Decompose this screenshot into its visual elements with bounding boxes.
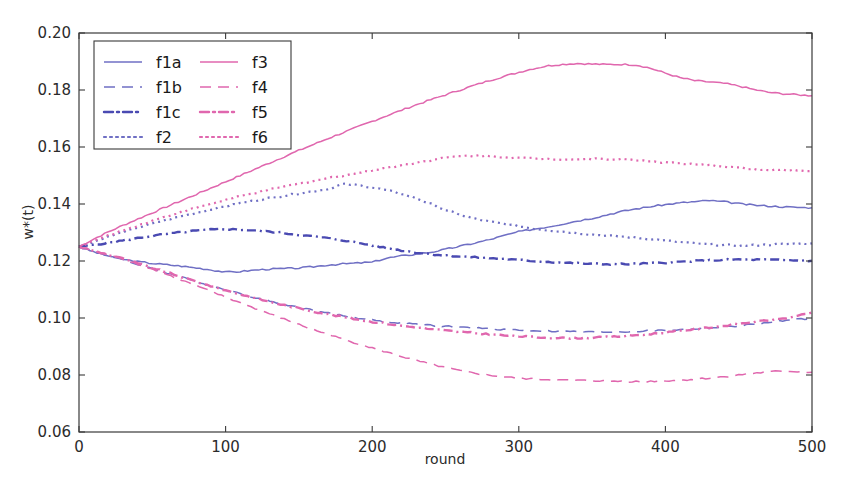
chart-figure: 0100200300400500 0.060.080.100.120.140.1… bbox=[0, 0, 855, 486]
legend-label-f1b: f1b bbox=[156, 78, 182, 97]
x-tick-label: 500 bbox=[798, 438, 827, 456]
x-tick-label: 0 bbox=[74, 438, 84, 456]
y-axis-title: w*(t) bbox=[20, 205, 36, 240]
y-tick-label: 0.10 bbox=[38, 309, 71, 327]
y-tick-label: 0.06 bbox=[38, 423, 71, 441]
y-tick-label: 0.14 bbox=[38, 195, 71, 213]
legend-label-f4: f4 bbox=[252, 78, 268, 97]
legend: f1af1bf1cf2f3f4f5f6 bbox=[94, 41, 291, 149]
legend-label-f3: f3 bbox=[252, 53, 268, 72]
x-tick-label: 400 bbox=[651, 438, 680, 456]
x-axis-title: round bbox=[425, 451, 466, 467]
legend-label-f1a: f1a bbox=[156, 53, 182, 72]
line-chart-svg: 0100200300400500 0.060.080.100.120.140.1… bbox=[0, 0, 855, 486]
x-tick-label: 100 bbox=[211, 438, 240, 456]
y-tick-label: 0.12 bbox=[38, 252, 71, 270]
x-tick-label: 300 bbox=[504, 438, 533, 456]
y-tick-label: 0.18 bbox=[38, 81, 71, 99]
x-tick-label: 200 bbox=[358, 438, 387, 456]
legend-label-f1c: f1c bbox=[156, 103, 181, 122]
legend-label-f6: f6 bbox=[252, 128, 268, 147]
y-tick-label: 0.16 bbox=[38, 138, 71, 156]
legend-label-f2: f2 bbox=[156, 128, 172, 147]
legend-label-f5: f5 bbox=[252, 103, 268, 122]
y-tick-label: 0.20 bbox=[38, 24, 71, 42]
y-tick-label: 0.08 bbox=[38, 366, 71, 384]
